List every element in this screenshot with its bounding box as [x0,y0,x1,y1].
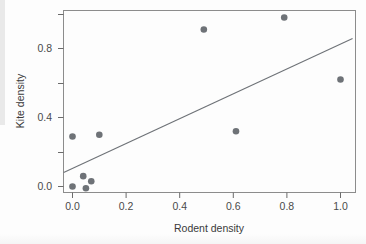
data-point [69,183,76,190]
data-point [201,26,208,33]
data-point [96,131,103,138]
data-point [337,76,344,83]
y-axis-title: Kite density [14,73,26,128]
data-point [80,173,87,180]
data-point [233,128,240,135]
scatter-plot: 0.0 0.4 0.8 Kite density 0.0 0.2 0.4 0.6… [0,0,366,244]
y-axis-ticks [58,15,64,187]
trendline-group [64,39,353,173]
y-tick-label-1: 0.4 [37,111,52,123]
plot-frame [64,11,356,193]
bottom-fade [0,234,366,244]
data-point [69,133,76,140]
x-tick-label-2: 0.4 [172,200,187,212]
x-tick-label-1: 0.2 [119,200,134,212]
regression-line [64,39,353,173]
x-axis-ticks [73,193,341,199]
figure-container: 0.0 0.4 0.8 Kite density 0.0 0.2 0.4 0.6… [0,0,366,244]
x-tick-label-4: 0.8 [280,200,295,212]
data-point [83,185,90,192]
x-tick-label-3: 0.6 [226,200,241,212]
y-tick-label-2: 0.8 [37,42,52,54]
x-tick-label-5: 1.0 [333,200,348,212]
y-tick-label-0: 0.0 [37,180,52,192]
data-points-group [69,14,344,191]
data-point [88,178,95,185]
data-point [281,14,288,21]
x-axis-title: Rodent density [174,222,245,234]
x-tick-label-0: 0.0 [65,200,80,212]
